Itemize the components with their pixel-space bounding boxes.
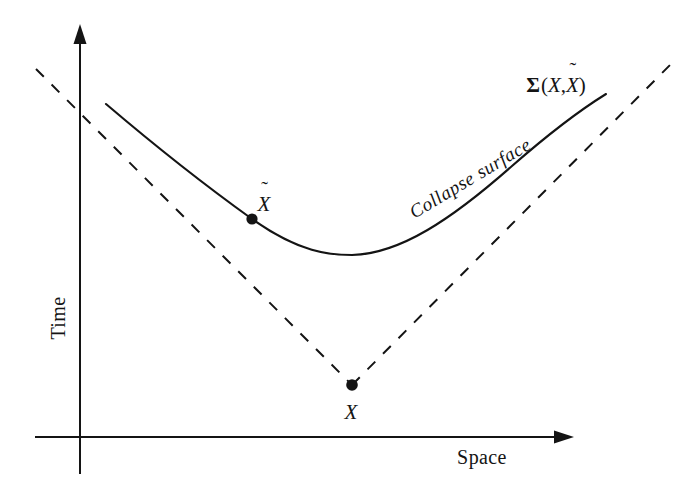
tilde-accent-icon: ˜ (570, 61, 577, 81)
axis-label-space: Space (457, 447, 507, 467)
figure-root: Time Space Collapse surface Σ(X,˜X) X ˜X (0, 0, 693, 489)
axis-label-time: Time (48, 296, 68, 339)
light-cone-right-branch (352, 62, 673, 385)
event-point-x-tilde (246, 213, 257, 224)
tilde-accent-icon: ˜ (261, 180, 268, 200)
surface-label-sigma: Σ(X,˜X) (526, 75, 586, 96)
x-axis-group (35, 431, 574, 444)
point-label-x-tilde: ˜X (258, 194, 271, 215)
sigma-arg-x-tilde: ˜X (566, 75, 579, 96)
y-axis-arrowhead (74, 24, 87, 44)
x-axis-arrowhead (554, 431, 574, 444)
sigma-open-paren: ( (541, 73, 548, 97)
sigma-glyph: Σ (526, 73, 541, 97)
point-label-x: X (345, 402, 358, 423)
x-tilde-composite: ˜X (258, 194, 271, 215)
collapse-surface-curve (106, 94, 606, 255)
sigma-arg-x: X (548, 73, 561, 97)
light-cone-left-branch (36, 69, 352, 385)
y-axis-group (74, 24, 87, 474)
event-point-x (346, 379, 358, 391)
sigma-close-paren: ) (579, 73, 586, 97)
